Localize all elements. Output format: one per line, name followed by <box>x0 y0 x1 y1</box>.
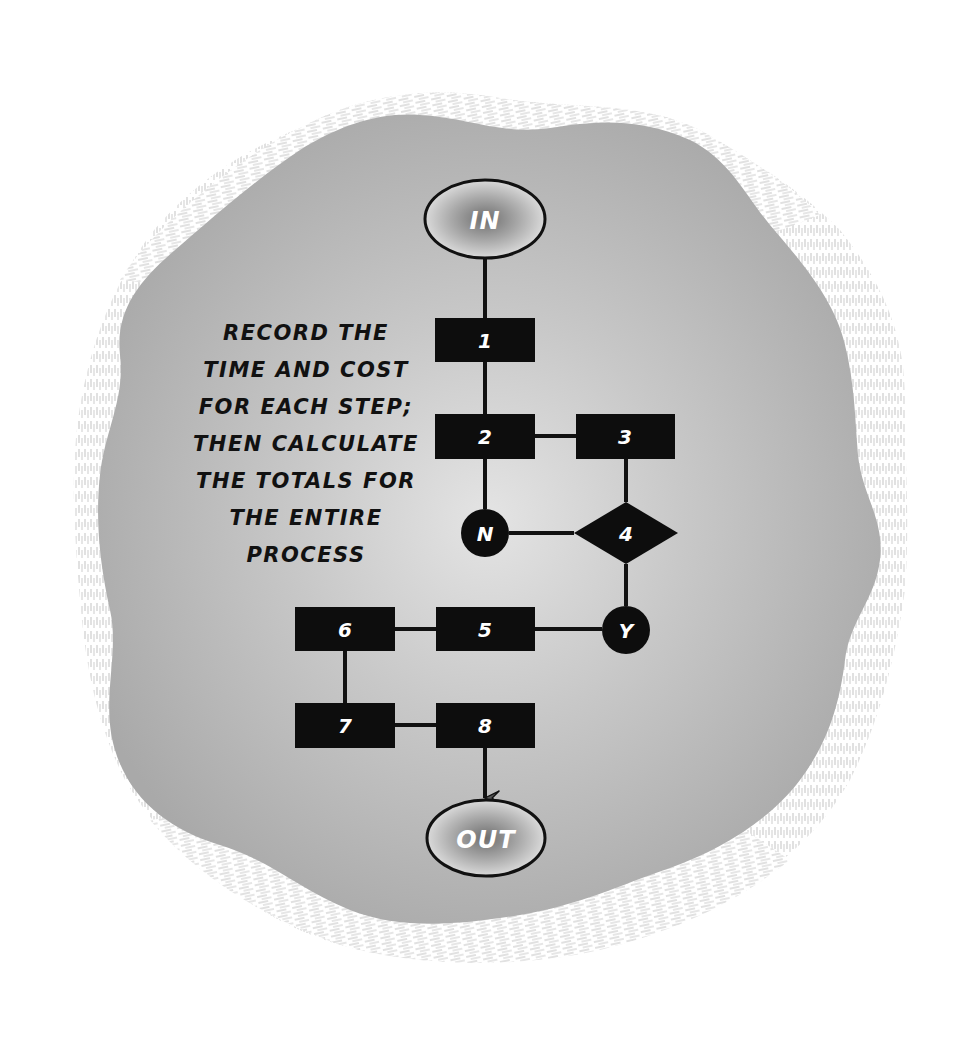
node-8-label: 8 <box>478 714 492 738</box>
node-7-label: 7 <box>338 714 352 738</box>
note-line-5: THE TOTALS FOR <box>196 469 416 493</box>
note-line-6: THE ENTIRE <box>229 506 382 530</box>
terminal-in: IN <box>425 180 545 258</box>
node-3: 3 <box>576 414 675 459</box>
note-line-2: TIME AND COST <box>203 358 409 382</box>
note-line-3: FOR EACH STEP; <box>199 395 414 419</box>
node-3-label: 3 <box>618 425 632 449</box>
node-2: 2 <box>435 414 535 459</box>
node-6: 6 <box>295 607 395 651</box>
node-1: 1 <box>435 318 535 362</box>
terminal-in-label: IN <box>469 207 500 235</box>
note-line-4: THEN CALCULATE <box>193 432 419 456</box>
note-line-7: PROCESS <box>246 543 365 567</box>
node-5-label: 5 <box>478 618 492 642</box>
node-5: 5 <box>436 607 535 651</box>
connector-y-label: Y <box>619 619 636 643</box>
node-7: 7 <box>295 703 395 748</box>
connector-y: Y <box>602 606 650 654</box>
connector-n: N <box>461 509 509 557</box>
flowchart-canvas: IN 1 2 3 4 N Y 5 6 7 8 OUT <box>0 0 973 1049</box>
node-1-label: 1 <box>478 329 492 353</box>
note-line-1: RECORD THE <box>223 321 389 345</box>
decision-4-label: 4 <box>618 522 633 546</box>
node-2-label: 2 <box>478 425 492 449</box>
terminal-out-label: OUT <box>456 826 516 854</box>
node-6-label: 6 <box>338 618 352 642</box>
terminal-out: OUT <box>427 800 545 876</box>
connector-n-label: N <box>477 522 494 546</box>
node-8: 8 <box>436 703 535 748</box>
